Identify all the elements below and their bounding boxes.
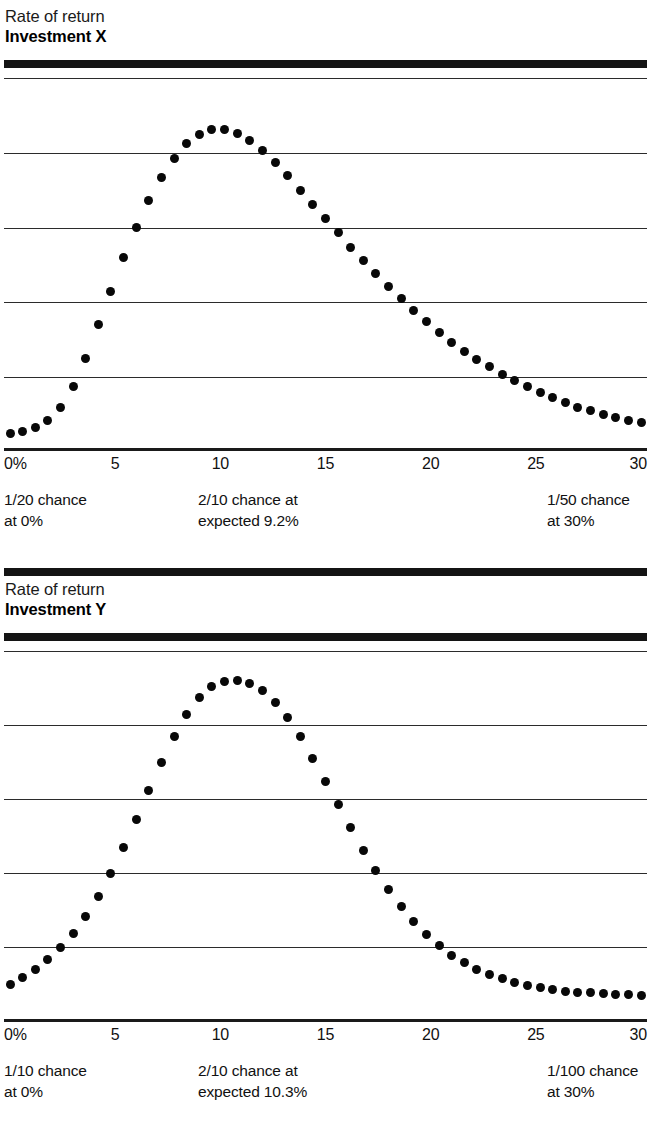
gridline — [4, 153, 647, 154]
data-point — [346, 243, 355, 252]
data-point — [43, 416, 52, 425]
x-tick-label: 15 — [317, 455, 334, 473]
data-point — [422, 317, 431, 326]
data-point — [397, 294, 406, 303]
data-point — [207, 125, 216, 134]
data-point — [447, 951, 456, 960]
data-point — [283, 171, 292, 180]
data-point — [472, 965, 481, 974]
data-point — [599, 989, 608, 998]
gridline — [4, 873, 647, 874]
data-point — [422, 930, 431, 939]
data-point — [409, 306, 418, 315]
data-point — [81, 354, 90, 363]
chart-header-subtitle: Rate of return — [5, 7, 107, 26]
data-point — [586, 406, 595, 415]
x-tick-label: 10 — [212, 455, 229, 473]
chart-panel-investment-y: Rate of return Investment Y 0%5101520253… — [0, 580, 651, 1126]
gridline — [4, 377, 647, 378]
data-point — [56, 403, 65, 412]
data-point — [599, 410, 608, 419]
data-point — [18, 973, 27, 982]
x-tick-label: 20 — [422, 455, 439, 473]
plot-area-investment-x — [0, 78, 651, 452]
data-point — [94, 320, 103, 329]
data-point — [245, 679, 254, 688]
data-point — [157, 173, 166, 182]
data-point — [397, 902, 406, 911]
data-point — [498, 370, 507, 379]
chart-header-title: Investment X — [5, 27, 107, 46]
data-point — [6, 980, 15, 989]
data-point — [182, 139, 191, 148]
data-point — [536, 388, 545, 397]
data-point — [384, 282, 393, 291]
data-point — [359, 846, 368, 855]
x-tick-label: 5 — [111, 455, 120, 473]
data-point — [69, 929, 78, 938]
data-point — [624, 990, 633, 999]
data-point — [409, 917, 418, 926]
data-point — [43, 955, 52, 964]
data-point — [510, 978, 519, 987]
data-point — [296, 186, 305, 195]
data-point — [460, 958, 469, 967]
data-point — [157, 758, 166, 767]
chart-header-investment-y: Rate of return Investment Y — [5, 580, 106, 619]
gridline — [4, 799, 647, 800]
x-tick-label: 20 — [422, 1026, 439, 1044]
data-point — [321, 777, 330, 786]
data-point — [220, 125, 229, 134]
data-point — [624, 416, 633, 425]
header-rule-investment-x — [4, 60, 647, 68]
data-point — [485, 362, 494, 371]
data-point — [536, 983, 545, 992]
data-point — [346, 823, 355, 832]
chart-header-title: Investment Y — [5, 600, 106, 619]
data-point — [132, 815, 141, 824]
data-point — [170, 154, 179, 163]
chance-annotation-left: 1/20 chance at 0% — [4, 490, 87, 531]
data-point — [334, 228, 343, 237]
data-point — [119, 843, 128, 852]
data-point — [573, 988, 582, 997]
data-point — [132, 223, 141, 232]
data-point — [561, 987, 570, 996]
data-point — [195, 693, 204, 702]
data-point — [384, 885, 393, 894]
data-point — [548, 985, 557, 994]
gridline — [4, 228, 647, 229]
chance-annotation-right: 1/100 chance at 30% — [547, 1061, 638, 1102]
data-point — [119, 253, 128, 262]
figure-page: Rate of return Investment X 0%5101520253… — [0, 0, 651, 1126]
data-point — [6, 429, 15, 438]
chance-annotation-right: 1/50 chance at 30% — [547, 490, 630, 531]
data-point — [18, 427, 27, 436]
data-point — [523, 981, 532, 990]
data-point — [611, 413, 620, 422]
data-point — [561, 398, 570, 407]
data-point — [460, 347, 469, 356]
chance-annotation-left: 1/10 chance at 0% — [4, 1061, 87, 1102]
data-point — [94, 892, 103, 901]
data-point — [233, 676, 242, 685]
plot-area-investment-y — [0, 651, 651, 1021]
gridline — [4, 302, 647, 303]
data-point — [296, 732, 305, 741]
x-tick-label: 25 — [527, 455, 544, 473]
data-point — [523, 382, 532, 391]
data-point — [498, 974, 507, 983]
data-point — [182, 710, 191, 719]
data-point — [321, 214, 330, 223]
header-rule-investment-y — [4, 633, 647, 641]
gridline — [4, 78, 647, 79]
gridline — [4, 651, 647, 652]
x-tick-label: 0% — [4, 455, 27, 473]
chart-header-subtitle: Rate of return — [5, 580, 106, 599]
data-point — [359, 256, 368, 265]
data-point — [447, 338, 456, 347]
data-point — [170, 732, 179, 741]
data-point — [586, 988, 595, 997]
data-point — [258, 146, 267, 155]
x-tick-label: 30 — [630, 455, 647, 473]
